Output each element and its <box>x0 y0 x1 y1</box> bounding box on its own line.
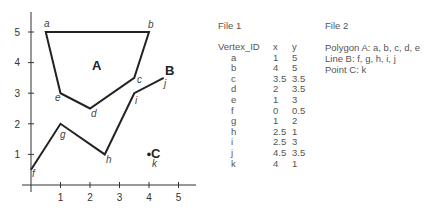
header-y: y <box>292 42 305 53</box>
cell-id: d <box>218 84 273 95</box>
x-tick-label: 4 <box>146 192 152 203</box>
diagram-canvas: 1 2 3 4 5 1 2 3 4 5 a b c d e <box>0 0 210 213</box>
feature-definition-line: Line B: f, g, h, i, j <box>325 53 420 64</box>
cell-id: e <box>218 95 273 106</box>
cell-id: k <box>218 159 273 170</box>
vertex-label-i: i <box>135 95 138 106</box>
cell-id: g <box>218 116 273 127</box>
cell-id: j <box>218 148 273 159</box>
y-tick-label: 5 <box>14 27 20 38</box>
vertex-label-e: e <box>55 92 61 103</box>
y-tick-label: 1 <box>14 149 20 160</box>
feature-definition-point: Point C: k <box>325 64 420 75</box>
table-row: j4.53.5 <box>218 148 305 159</box>
x-tick-label: 2 <box>87 192 93 203</box>
vertex-label-f: f <box>32 168 36 179</box>
feature-label-a: A <box>92 58 102 73</box>
vertex-label-a: a <box>44 18 50 29</box>
cell-id: h <box>218 127 273 138</box>
cell-x: 4 <box>273 159 292 170</box>
y-tick-label: 4 <box>14 57 20 68</box>
file2-title: File 2 <box>325 20 420 31</box>
cell-id: b <box>218 63 273 74</box>
table-header-row: Vertex_ID x y <box>218 42 305 53</box>
cell-y: 3.5 <box>292 148 305 159</box>
vertex-label-c: c <box>137 74 142 85</box>
x-tick-label: 3 <box>117 192 123 203</box>
y-tick-label: 2 <box>14 119 20 130</box>
x-tick-label: 5 <box>176 192 182 203</box>
cell-x: 4.5 <box>273 148 292 159</box>
header-x: x <box>273 42 292 53</box>
vertex-label-d: d <box>91 108 97 119</box>
cell-y: 3 <box>292 95 305 106</box>
cell-id: a <box>218 53 273 64</box>
table-row: e13 <box>218 95 305 106</box>
file1-title: File 1 <box>218 20 305 31</box>
vertex-table: Vertex_ID x y a15 b45 c3.53.5 d23.5 e13 … <box>218 42 305 169</box>
x-tick-label: 1 <box>58 192 64 203</box>
vertex-label-g: g <box>60 129 66 140</box>
cell-y: 1 <box>292 159 305 170</box>
vertex-label-h: h <box>106 154 112 165</box>
feature-label-c: C <box>151 146 161 161</box>
file1-panel: File 1 Vertex_ID x y a15 b45 c3.53.5 d23… <box>218 20 305 169</box>
feature-label-b: B <box>165 63 174 78</box>
cell-id: i <box>218 137 273 148</box>
header-vertex-id: Vertex_ID <box>218 42 273 53</box>
vertex-label-b: b <box>148 19 154 30</box>
vertex-label-j: j <box>162 78 167 89</box>
cell-id: f <box>218 106 273 117</box>
vector-diagram: 1 2 3 4 5 1 2 3 4 5 a b c d e <box>0 0 210 213</box>
file2-panel: File 2 Polygon A: a, b, c, d, e Line B: … <box>325 20 420 75</box>
y-tick-label: 3 <box>14 88 20 99</box>
feature-definition-polygon: Polygon A: a, b, c, d, e <box>325 42 420 53</box>
table-row: k41 <box>218 159 305 170</box>
line-b <box>31 78 164 170</box>
cell-x: 1 <box>273 95 292 106</box>
cell-id: c <box>218 74 273 85</box>
